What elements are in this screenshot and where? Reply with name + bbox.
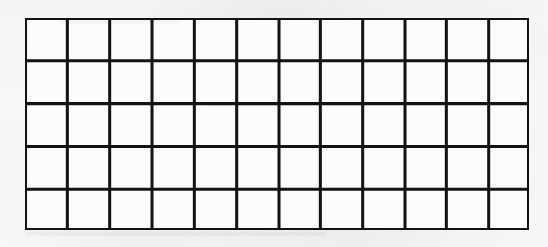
grid-cell[interactable] xyxy=(25,61,67,104)
grid-cell[interactable] xyxy=(489,146,529,189)
grid-cell[interactable] xyxy=(320,18,362,61)
grid-cell[interactable] xyxy=(110,18,152,61)
scanned-page xyxy=(0,0,548,247)
grid-cell[interactable] xyxy=(320,61,362,104)
grid-cell[interactable] xyxy=(363,104,405,147)
grid-cell[interactable] xyxy=(237,61,279,104)
grid-cell[interactable] xyxy=(67,61,109,104)
grid-cell[interactable] xyxy=(110,104,152,147)
grid-cell[interactable] xyxy=(363,189,405,230)
grid-cells-group xyxy=(25,18,529,230)
grid-cell[interactable] xyxy=(194,18,236,61)
grid-cell[interactable] xyxy=(110,146,152,189)
grid-cell[interactable] xyxy=(405,146,446,189)
grid-cell[interactable] xyxy=(320,104,362,147)
grid-cell[interactable] xyxy=(237,146,279,189)
grid-cell[interactable] xyxy=(25,18,67,61)
grid-cell[interactable] xyxy=(320,146,362,189)
grid-cell[interactable] xyxy=(25,104,67,147)
grid-cell[interactable] xyxy=(405,104,446,147)
grid-cell[interactable] xyxy=(152,189,194,230)
grid-cell[interactable] xyxy=(405,61,446,104)
grid-cell[interactable] xyxy=(279,104,320,147)
grid-cell[interactable] xyxy=(363,61,405,104)
grid-cell[interactable] xyxy=(25,146,67,189)
grid-cell[interactable] xyxy=(152,104,194,147)
grid-cell[interactable] xyxy=(194,61,236,104)
grid-cell[interactable] xyxy=(446,146,488,189)
grid-cell[interactable] xyxy=(446,104,488,147)
grid-svg xyxy=(25,18,529,230)
grid-cell[interactable] xyxy=(405,189,446,230)
grid-cell[interactable] xyxy=(110,189,152,230)
grid-cell[interactable] xyxy=(67,189,109,230)
grid-cell[interactable] xyxy=(152,18,194,61)
grid-cell[interactable] xyxy=(194,104,236,147)
grid-cell[interactable] xyxy=(67,146,109,189)
grid-cell[interactable] xyxy=(279,18,320,61)
grid-cell[interactable] xyxy=(152,61,194,104)
grid-cell[interactable] xyxy=(237,18,279,61)
grid-table xyxy=(25,18,529,230)
scan-smudge xyxy=(26,232,326,235)
grid-cell[interactable] xyxy=(237,104,279,147)
grid-cell[interactable] xyxy=(363,146,405,189)
grid-cell[interactable] xyxy=(67,104,109,147)
grid-cell[interactable] xyxy=(320,189,362,230)
grid-cell[interactable] xyxy=(279,146,320,189)
grid-cell[interactable] xyxy=(279,61,320,104)
grid-cell[interactable] xyxy=(25,189,67,230)
grid-cell[interactable] xyxy=(194,189,236,230)
grid-cell[interactable] xyxy=(446,18,488,61)
grid-cell[interactable] xyxy=(489,189,529,230)
grid-cell[interactable] xyxy=(194,146,236,189)
grid-cell[interactable] xyxy=(110,61,152,104)
grid-cell[interactable] xyxy=(363,18,405,61)
grid-cell[interactable] xyxy=(405,18,446,61)
grid-cell[interactable] xyxy=(489,18,529,61)
grid-cell[interactable] xyxy=(67,18,109,61)
grid-cell[interactable] xyxy=(152,146,194,189)
grid-cell[interactable] xyxy=(446,189,488,230)
grid-cell[interactable] xyxy=(237,189,279,230)
grid-cell[interactable] xyxy=(489,104,529,147)
grid-cell[interactable] xyxy=(446,61,488,104)
grid-cell[interactable] xyxy=(279,189,320,230)
grid-cell[interactable] xyxy=(489,61,529,104)
